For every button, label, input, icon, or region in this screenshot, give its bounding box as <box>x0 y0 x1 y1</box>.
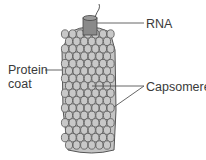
capsomere-grid <box>61 30 114 149</box>
capsomeres-leader-line-2 <box>114 86 144 107</box>
protein-coat <box>61 27 116 153</box>
rna-strand <box>95 4 100 17</box>
capsomeres-label: Capsomeres <box>146 80 206 94</box>
rna-label: RNA <box>146 17 172 31</box>
virus-diagram: RNA Protein coat Capsomeres <box>0 0 206 160</box>
protein-coat-label-line2: coat <box>8 77 32 91</box>
protein-coat-label-line1: Protein <box>8 63 48 77</box>
rna-core <box>83 4 100 35</box>
